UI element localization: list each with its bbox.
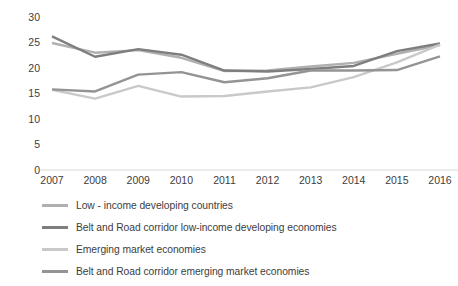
- chart-root: Public and publicly guaranteed external …: [0, 0, 458, 286]
- x-axis-tick-labels: 2007200820092010201120122013201420152016: [40, 174, 458, 190]
- y-tick-10: 10: [28, 114, 40, 124]
- plot-svg: [40, 10, 458, 175]
- x-tick-2008: 2008: [83, 174, 106, 186]
- y-tick-15: 15: [28, 88, 40, 98]
- legend-item-1[interactable]: Belt and Road corridor low-income develo…: [42, 216, 454, 238]
- series-line-3: [52, 56, 440, 91]
- legend-swatch-icon-0: [42, 204, 68, 207]
- series-line-1: [52, 36, 440, 71]
- x-tick-2013: 2013: [299, 174, 322, 186]
- x-tick-2011: 2011: [213, 174, 236, 186]
- legend-label-1: Belt and Road corridor low-income develo…: [76, 222, 337, 233]
- x-tick-2014: 2014: [342, 174, 365, 186]
- legend-swatch-icon-2: [42, 248, 68, 251]
- x-tick-2010: 2010: [170, 174, 193, 186]
- x-tick-2016: 2016: [428, 174, 451, 186]
- legend-label-3: Belt and Road corridor emerging market e…: [76, 266, 309, 277]
- y-tick-20: 20: [28, 63, 40, 73]
- plot-area: [40, 10, 458, 175]
- y-tick-25: 25: [28, 37, 40, 47]
- chart-legend: Low - income developing countriesBelt an…: [42, 194, 454, 282]
- legend-swatch-icon-3: [42, 270, 68, 273]
- legend-item-3[interactable]: Belt and Road corridor emerging market e…: [42, 260, 454, 282]
- x-tick-2009: 2009: [127, 174, 150, 186]
- legend-label-2: Emerging market economies: [76, 244, 206, 255]
- y-axis-tick-labels: 302520151050: [18, 0, 40, 186]
- legend-item-2[interactable]: Emerging market economies: [42, 238, 454, 260]
- x-tick-2007: 2007: [40, 174, 63, 186]
- legend-swatch-icon-1: [42, 226, 68, 229]
- x-tick-2015: 2015: [385, 174, 408, 186]
- legend-label-0: Low - income developing countries: [76, 200, 233, 211]
- x-tick-2012: 2012: [256, 174, 279, 186]
- y-tick-30: 30: [28, 12, 40, 22]
- legend-item-0[interactable]: Low - income developing countries: [42, 194, 454, 216]
